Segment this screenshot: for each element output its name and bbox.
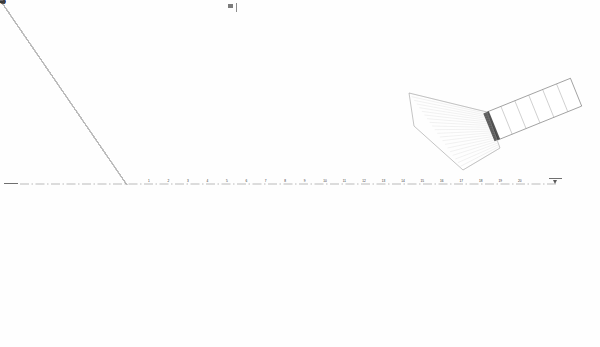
right-marker-rule bbox=[549, 178, 562, 179]
perimeter-columns bbox=[0, 0, 3, 2]
ramp-structure bbox=[409, 78, 582, 170]
radial-aisle-lines bbox=[0, 0, 127, 185]
top-marker-block bbox=[228, 4, 233, 8]
interior-box-structures bbox=[118, 108, 446, 258]
right-axis-marker bbox=[549, 178, 567, 190]
left-axis-marker bbox=[4, 183, 18, 184]
top-reference-marker bbox=[228, 3, 239, 12]
top-marker-rule bbox=[236, 3, 237, 12]
floor-plan-drawing bbox=[0, 0, 600, 347]
down-arrow-icon bbox=[553, 180, 557, 184]
drawing-sheet: 12.513.013.413.814.114.314.514.614.614.5… bbox=[0, 0, 600, 347]
